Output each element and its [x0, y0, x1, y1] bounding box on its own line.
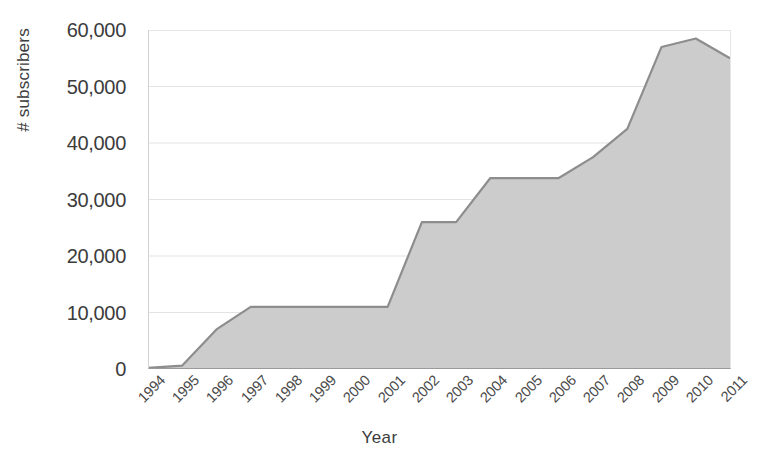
x-tick-label: 2000: [331, 372, 373, 414]
y-tick-label: 60,000: [0, 19, 140, 42]
x-tick-label: 2009: [639, 372, 681, 414]
x-tick-label: 2003: [434, 372, 476, 414]
x-tick-label: 2004: [468, 372, 510, 414]
x-tick-label: 1999: [297, 372, 339, 414]
plot-area: [148, 30, 731, 369]
x-tick-label: 2005: [502, 372, 544, 414]
plot-frame: [148, 30, 731, 369]
x-tick-label: 2001: [366, 372, 408, 414]
x-tick-label: 2008: [605, 372, 647, 414]
x-tick-label: 2006: [537, 372, 579, 414]
x-axis-title: Year: [0, 428, 759, 448]
x-tick-label: 2007: [571, 372, 613, 414]
x-axis-tick-labels: 1994199519961997199819992000200120022003…: [148, 372, 731, 422]
y-tick-label: 10,000: [0, 301, 140, 324]
y-axis-tick-labels: 010,00020,00030,00040,00050,00060,000: [0, 0, 140, 467]
y-tick-label: 20,000: [0, 245, 140, 268]
x-tick-label: 1996: [194, 372, 236, 414]
x-tick-label: 1998: [263, 372, 305, 414]
y-tick-label: 50,000: [0, 75, 140, 98]
x-tick-label: 1997: [229, 372, 271, 414]
y-tick-label: 0: [0, 358, 140, 381]
x-tick-label: 1995: [160, 372, 202, 414]
x-tick-label: 2002: [400, 372, 442, 414]
x-tick-label: 2011: [708, 372, 750, 414]
y-tick-label: 30,000: [0, 188, 140, 211]
chart-figure: # subscribers 010,00020,00030,00040,0005…: [0, 0, 759, 467]
y-tick-label: 40,000: [0, 132, 140, 155]
x-tick-label: 2010: [674, 372, 716, 414]
